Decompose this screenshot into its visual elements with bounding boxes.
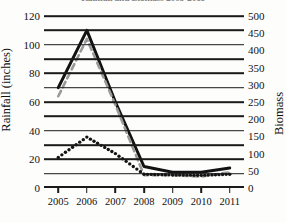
x-tick-label: 2005	[48, 196, 69, 207]
gridline	[44, 173, 244, 175]
y-tick-label-right: 200	[248, 113, 274, 125]
x-tick-mark	[172, 188, 174, 193]
chart-title: Rainfall and Biomass 2005-2011	[0, 0, 286, 3]
y-tick-label-left: 20	[14, 153, 40, 165]
chart-container: Rainfall and Biomass 2005-2011 Rainfall …	[0, 0, 286, 223]
x-tick-label: 2008	[134, 196, 155, 207]
y-tick-label-right: 350	[248, 62, 274, 74]
x-tick-label: 2011	[219, 196, 240, 207]
y-tick-label-right: 250	[248, 96, 274, 108]
y-tick-label-right: 300	[248, 79, 274, 91]
x-tick-mark	[200, 188, 202, 193]
gridline	[44, 30, 244, 32]
y-tick-label-right: 0	[248, 182, 274, 194]
gridline	[44, 130, 244, 132]
x-tick-mark	[86, 188, 88, 193]
y-tick-label-right: 500	[248, 10, 274, 22]
x-tick-label: 2010	[191, 196, 212, 207]
y-tick-label-left: 40	[14, 125, 40, 137]
y-axis-title-left: Rainfall (inches)	[0, 48, 14, 132]
y-axis-ticks-right: 050100150200250300350400450500	[248, 0, 274, 223]
x-tick-label: 2006	[76, 196, 97, 207]
x-tick-label: 2007	[105, 196, 126, 207]
gridline	[44, 116, 244, 118]
gridline	[44, 15, 244, 17]
y-tick-label-left: 100	[14, 39, 40, 51]
gridline	[44, 144, 244, 146]
gridline	[44, 44, 244, 46]
x-tick-mark	[143, 188, 145, 193]
y-tick-label-left: 60	[14, 96, 40, 108]
y-axis-ticks-left: 020406080100120	[14, 0, 40, 223]
x-tick-mark	[115, 188, 117, 193]
y-tick-label-right: 100	[248, 148, 274, 160]
y-tick-label-left: 80	[14, 67, 40, 79]
gridline	[44, 101, 244, 103]
gridline	[44, 159, 244, 161]
y-tick-label-right: 400	[248, 44, 274, 56]
gridline	[44, 73, 244, 75]
y-tick-label-right: 450	[248, 27, 274, 39]
x-tick-mark	[57, 188, 59, 193]
gridline	[44, 87, 244, 89]
plot-area	[44, 16, 244, 188]
y-tick-label-left: 120	[14, 10, 40, 22]
x-tick-mark	[229, 188, 231, 193]
y-axis-title-right: Biomass	[272, 92, 286, 135]
gridline	[44, 58, 244, 60]
x-axis-ticks: 2005200620072008200920102011	[44, 196, 244, 210]
y-tick-label-right: 50	[248, 165, 274, 177]
y-tick-label-right: 150	[248, 130, 274, 142]
y-tick-label-left: 0	[14, 182, 40, 194]
x-tick-label: 2009	[162, 196, 183, 207]
